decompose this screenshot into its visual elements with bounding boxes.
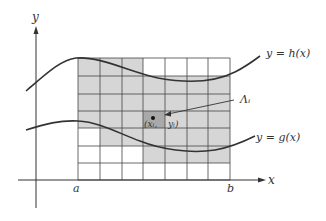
shaded-cell [143, 94, 165, 111]
shaded-cell [187, 146, 208, 163]
shaded-cell [122, 111, 143, 128]
y-axis-arrow-icon [34, 26, 39, 34]
shaded-cell [122, 128, 143, 146]
shaded-cell [187, 94, 208, 111]
b-label: b [227, 182, 234, 195]
double-integral-region-diagram: y x a b y = h(x) y = g(x) Λᵢ (xᵢ, yᵢ) [0, 0, 326, 221]
grid-cells [78, 58, 230, 163]
shaded-cell [100, 94, 122, 111]
shaded-cell [78, 111, 100, 128]
shaded-cell [165, 128, 187, 146]
shaded-cell [100, 111, 122, 128]
a-label: a [73, 182, 80, 195]
cell-label: Λᵢ [239, 93, 250, 106]
y-axis-label: y [31, 10, 39, 24]
shaded-cell [165, 94, 187, 111]
shaded-cell [187, 76, 208, 94]
shaded-cell [122, 94, 143, 111]
shaded-cell [122, 76, 143, 94]
shaded-cell [100, 128, 122, 146]
shaded-cell [208, 111, 230, 128]
lower-curve-label: y = g(x) [255, 131, 300, 144]
point-label-left: (xᵢ, [144, 119, 157, 129]
shaded-cell [143, 146, 165, 163]
shaded-cell [208, 94, 230, 111]
upper-curve-label: y = h(x) [265, 47, 310, 60]
shaded-cell [78, 94, 100, 111]
shaded-cell [208, 128, 230, 146]
shaded-cell [78, 58, 100, 76]
shaded-cell [187, 111, 208, 128]
shaded-cell [187, 128, 208, 146]
point-label-right: yᵢ) [167, 119, 179, 129]
shaded-cell [100, 76, 122, 94]
x-axis-arrow-icon [258, 178, 266, 183]
x-axis-label: x [268, 173, 275, 187]
shaded-cell [78, 76, 100, 94]
shaded-cell [165, 76, 187, 94]
